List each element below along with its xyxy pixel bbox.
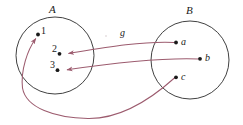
element-label-a: a <box>181 37 186 47</box>
stray-speck <box>105 35 106 36</box>
function-mapping-figure: A B g 1 2 3 a b c <box>0 0 243 125</box>
set-a-label: A <box>49 4 56 15</box>
dot-element-b <box>198 57 202 61</box>
arrow-a-to-2 <box>69 42 175 53</box>
function-name-label: g <box>120 28 125 38</box>
dot-element-1 <box>36 33 40 37</box>
element-label-1: 1 <box>41 26 46 36</box>
element-label-3: 3 <box>50 60 55 70</box>
arrow-b-to-3 <box>67 59 199 70</box>
dot-element-2 <box>58 52 62 56</box>
dot-element-3 <box>56 68 60 72</box>
dot-element-a <box>174 41 178 45</box>
set-b-label: B <box>186 5 193 16</box>
element-label-b: b <box>205 53 210 63</box>
set-a-circle <box>16 17 94 94</box>
element-label-2: 2 <box>52 44 57 54</box>
dot-element-c <box>174 75 178 79</box>
element-label-c: c <box>181 72 185 82</box>
